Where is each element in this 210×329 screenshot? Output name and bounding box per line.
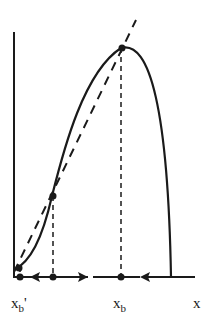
phase-diagram <box>0 0 210 329</box>
fixed-point-xb-prime <box>16 265 23 272</box>
hump-curve <box>14 47 171 277</box>
label-xb-prime: xb' <box>11 296 27 311</box>
label-xb-prime-sub: b <box>19 302 25 314</box>
label-xb: xb <box>113 296 126 311</box>
axis-point-xb <box>118 274 125 281</box>
label-xb-prime-main: x <box>11 295 19 311</box>
x-axis-label: x <box>193 296 201 311</box>
fixed-point-unstable <box>50 193 57 200</box>
axis-point-xb-prime <box>17 274 24 281</box>
label-xb-sub: b <box>121 302 127 314</box>
label-xb-main: x <box>113 295 121 311</box>
axis-point-unstable <box>50 274 57 281</box>
diagonal-dashed-line <box>14 20 136 272</box>
label-xb-prime-prime: ' <box>24 295 27 311</box>
x-axis-label-text: x <box>193 295 201 311</box>
fixed-point-xb <box>119 45 126 52</box>
